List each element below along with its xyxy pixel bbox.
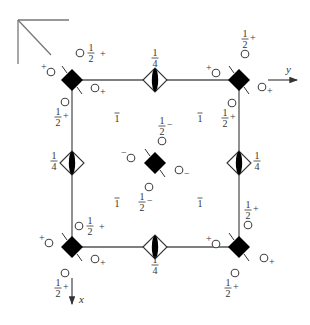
- height-fraction: 12+: [55, 277, 70, 299]
- svg-text:2: 2: [56, 288, 61, 299]
- svg-text:1: 1: [52, 150, 57, 161]
- atom-position: +: [41, 61, 55, 76]
- atom-position: −: [121, 147, 135, 162]
- rotoinversion-axis-symbol: [228, 233, 250, 261]
- svg-text:1: 1: [246, 199, 251, 210]
- height-fraction: 12+: [245, 199, 260, 221]
- svg-text:4: 4: [52, 161, 57, 172]
- atom-position: 12+: [55, 269, 70, 299]
- svg-text:+: +: [100, 86, 106, 97]
- atom-position: +: [206, 62, 220, 77]
- svg-text:+: +: [230, 111, 236, 122]
- x-axis-label: x: [78, 293, 84, 305]
- atom-position: 12−: [139, 183, 154, 213]
- svg-text:1: 1: [153, 47, 158, 58]
- atom-position: +: [258, 83, 273, 96]
- svg-text:2: 2: [223, 118, 228, 129]
- svg-text:1: 1: [226, 277, 231, 288]
- height-fraction: 14: [152, 254, 159, 276]
- svg-text:4: 4: [153, 265, 158, 276]
- height-fraction: 12: [87, 215, 94, 237]
- svg-text:−: −: [147, 195, 153, 206]
- svg-text:+: +: [63, 110, 69, 121]
- svg-text:1: 1: [243, 28, 248, 39]
- atom-position: +: [260, 254, 275, 267]
- svg-text:1: 1: [88, 215, 93, 226]
- svg-text:+: +: [267, 85, 273, 96]
- svg-text:−: −: [184, 168, 190, 179]
- svg-text:−: −: [167, 119, 173, 130]
- y-axis-label: y: [285, 63, 291, 75]
- height-fraction: 14: [152, 47, 159, 69]
- svg-text:+: +: [39, 232, 45, 243]
- svg-text:2: 2: [243, 39, 248, 50]
- svg-text:2: 2: [246, 210, 251, 221]
- atom-position: 12+: [225, 269, 240, 299]
- svg-text:+: +: [233, 281, 239, 292]
- svg-text:4: 4: [153, 58, 158, 69]
- svg-text:+: +: [206, 62, 212, 73]
- height-fraction: 12−: [139, 191, 154, 213]
- space-group-diagram: y x 14141414 1111 ++12+12++12++12+++12+1…: [0, 0, 310, 325]
- x-axis: x: [72, 278, 84, 305]
- atom-position: 12+: [55, 98, 70, 128]
- svg-text:−: −: [121, 147, 127, 158]
- origin-marker: [18, 20, 69, 64]
- height-fraction: 12−: [159, 115, 174, 137]
- svg-text:1: 1: [56, 277, 61, 288]
- atom-position: −: [175, 166, 190, 179]
- rotoinversion-axis-symbol: [61, 233, 83, 261]
- svg-text:1: 1: [115, 198, 120, 209]
- svg-text:4: 4: [255, 161, 260, 172]
- inversion-center-label: 1: [198, 113, 203, 124]
- svg-text:1: 1: [223, 107, 228, 118]
- svg-text:+: +: [206, 233, 212, 244]
- rotoinversion-axis-symbol: [144, 149, 166, 177]
- svg-text:1: 1: [153, 254, 158, 265]
- svg-text:+: +: [99, 221, 105, 232]
- inversion-center-label: 1: [115, 198, 120, 209]
- svg-text:+: +: [250, 32, 256, 43]
- screw-axis-symbol: 14: [143, 235, 167, 276]
- svg-text:+: +: [253, 203, 259, 214]
- svg-text:2: 2: [160, 126, 165, 137]
- svg-text:1: 1: [198, 198, 203, 209]
- svg-text:1: 1: [89, 42, 94, 53]
- atom-position: +: [91, 255, 106, 268]
- height-fraction: 12+: [222, 107, 237, 129]
- svg-text:2: 2: [140, 202, 145, 213]
- svg-text:1: 1: [140, 191, 145, 202]
- svg-text:1: 1: [160, 115, 165, 126]
- height-fraction: 12+: [225, 277, 240, 299]
- atom-position: +12: [75, 215, 105, 237]
- y-axis: y: [268, 63, 297, 80]
- height-fraction: 12+: [242, 28, 257, 50]
- atom-position: +: [206, 233, 220, 248]
- svg-text:1: 1: [115, 113, 120, 124]
- svg-text:2: 2: [226, 288, 231, 299]
- svg-text:2: 2: [89, 53, 94, 64]
- atom-position: 12+: [222, 99, 237, 129]
- svg-text:+: +: [100, 257, 106, 268]
- svg-text:1: 1: [198, 113, 203, 124]
- rotoinversion-axis-symbol: [61, 66, 83, 94]
- atom-position: 12+: [244, 199, 259, 229]
- height-fraction: 12+: [55, 106, 70, 128]
- svg-text:2: 2: [56, 117, 61, 128]
- screw-axis-symbol: 14: [227, 150, 261, 175]
- height-fraction: 14: [51, 150, 58, 172]
- atom-position: +: [39, 232, 53, 247]
- svg-text:1: 1: [255, 150, 260, 161]
- svg-text:2: 2: [88, 226, 93, 237]
- atom-position: 12+: [241, 28, 256, 58]
- svg-text:+: +: [100, 48, 106, 59]
- svg-text:+: +: [63, 281, 69, 292]
- screw-axis-symbol: 14: [143, 47, 167, 92]
- atom-position: +: [91, 84, 106, 97]
- svg-text:1: 1: [56, 106, 61, 117]
- svg-text:+: +: [41, 61, 47, 72]
- svg-text:+: +: [269, 256, 275, 267]
- height-fraction: 12: [88, 42, 95, 64]
- screw-axis-symbol: 14: [51, 150, 85, 175]
- height-fraction: 14: [254, 150, 261, 172]
